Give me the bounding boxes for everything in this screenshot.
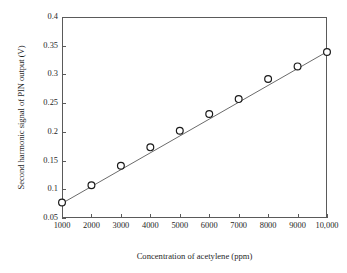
x-tick-label: 6000 <box>201 221 218 231</box>
plot-area <box>62 17 327 218</box>
x-tick-label: 9000 <box>289 221 306 231</box>
x-tick-label: 7000 <box>230 221 247 231</box>
y-tick-label: 0.25 <box>43 98 58 108</box>
x-tick-label: 5000 <box>171 221 188 231</box>
x-tick-label: 3000 <box>113 221 130 231</box>
x-tick-label: 1000 <box>54 221 71 231</box>
chart-figure: Second harmonic signal of PIN output (V)… <box>0 0 347 273</box>
x-axis-title: Concentration of acetylene (ppm) <box>62 250 327 262</box>
x-tick-mark <box>327 214 328 218</box>
y-tick-label: 0.15 <box>43 156 58 166</box>
y-tick-mark <box>62 218 66 219</box>
y-tick-label: 0.2 <box>48 127 58 137</box>
x-tick-label: 10,000 <box>315 221 338 231</box>
y-tick-label: 0.3 <box>48 69 58 79</box>
y-tick-label: 0.4 <box>48 12 58 22</box>
y-axis-title: Second harmonic signal of PIN output (V) <box>12 17 30 218</box>
y-tick-label: 0.05 <box>43 213 58 223</box>
y-tick-label: 0.1 <box>48 184 58 194</box>
y-tick-label: 0.35 <box>43 41 58 51</box>
x-tick-label: 4000 <box>142 221 159 231</box>
x-tick-label: 2000 <box>83 221 100 231</box>
x-tick-label: 8000 <box>260 221 277 231</box>
